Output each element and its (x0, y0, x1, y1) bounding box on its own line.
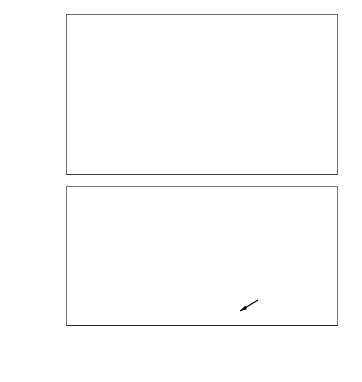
overlay-curves (67, 187, 336, 325)
figure-root (0, 0, 362, 382)
juvenile-crust-bars (67, 15, 336, 174)
detrital-zircon-bars (67, 187, 336, 325)
